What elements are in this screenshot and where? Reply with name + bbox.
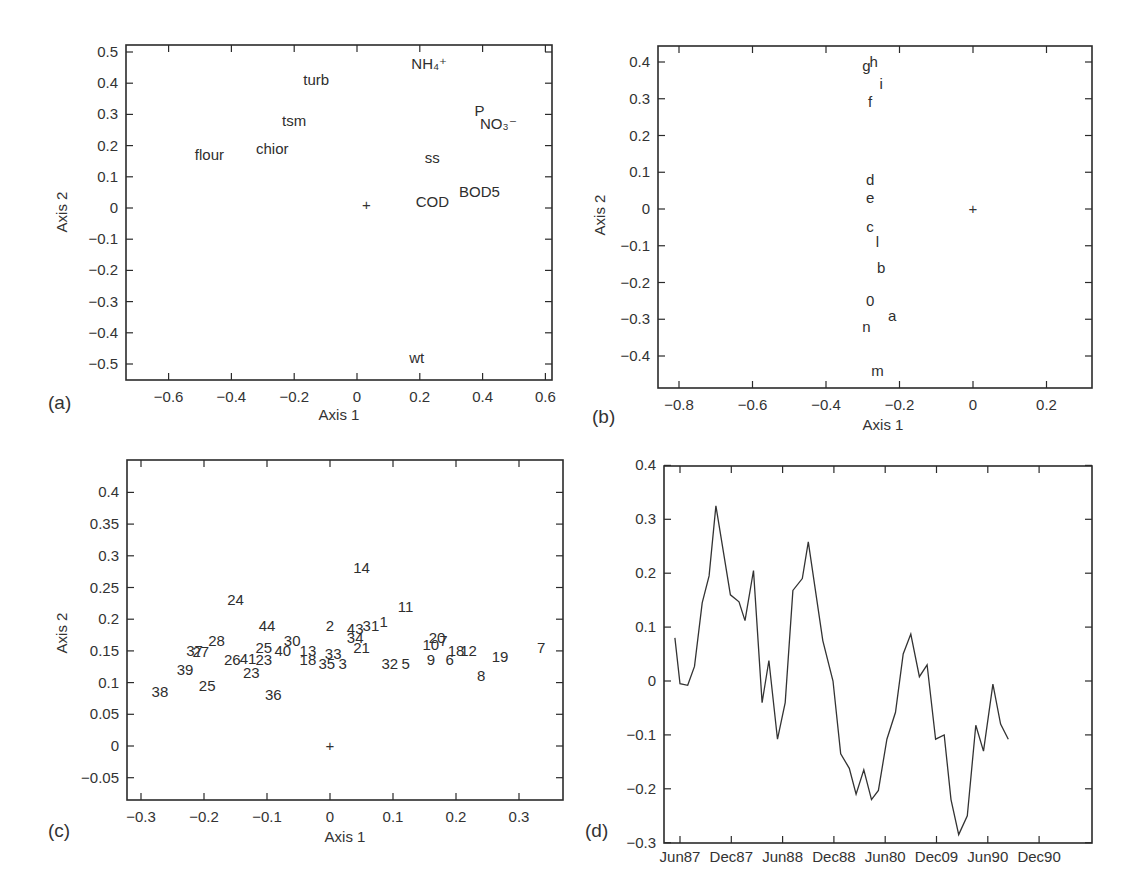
- y-tick-label: 0.4: [97, 74, 118, 91]
- panel-a-ylabel: Axis 2: [53, 192, 70, 233]
- panel-d-series-line: [675, 506, 1008, 835]
- panel-b-y-axis: 0.40.30.20.10−0.1−0.2−0.3−0.4: [620, 53, 1092, 364]
- point-label: 2: [326, 617, 334, 634]
- point-label: 39: [177, 661, 194, 678]
- panel-d-line: 0.40.30.20.10−0.1−0.2−0.3 Jun87Dec87Jun8…: [585, 456, 1092, 865]
- x-tick-label: 0.6: [535, 388, 556, 405]
- point-label: tsm: [282, 112, 306, 129]
- point-label: turb: [303, 71, 329, 88]
- x-tick-label: −0.2: [885, 396, 915, 413]
- point-label: h: [870, 53, 878, 70]
- y-tick-label: 0.4: [98, 483, 119, 500]
- panel-c-ylabel: Axis 2: [53, 613, 70, 654]
- y-tick-label: −0.3: [620, 310, 650, 327]
- panel-c-xlabel: Axis 1: [325, 828, 366, 845]
- y-tick-label: −0.1: [626, 726, 656, 743]
- y-tick-label: −0.2: [626, 780, 656, 797]
- y-tick-label: 0.5: [97, 43, 118, 60]
- panel-c-y-axis: 0.40.350.30.250.20.150.10.050−0.05: [81, 483, 563, 785]
- point-label: f: [868, 93, 873, 110]
- point-label: 35: [319, 655, 336, 672]
- point-label: ss: [425, 149, 440, 166]
- point-label: 28: [208, 632, 225, 649]
- x-tick-label: −0.6: [154, 388, 184, 405]
- x-tick-label: 0.4: [472, 388, 493, 405]
- y-tick-label: 0: [111, 737, 119, 754]
- point-label: 38: [152, 683, 169, 700]
- point-label: d: [866, 171, 874, 188]
- origin-plus-marker: +: [326, 737, 335, 754]
- x-tick-label: −0.4: [217, 388, 247, 405]
- y-tick-label: 0.4: [629, 53, 650, 70]
- point-label: 12: [460, 642, 477, 659]
- point-label: 5: [401, 655, 409, 672]
- point-label: 18: [300, 651, 317, 668]
- y-tick-label: −0.4: [620, 347, 650, 364]
- point-label: flour: [195, 146, 224, 163]
- point-label: 19: [492, 648, 509, 665]
- point-label: 0: [866, 292, 874, 309]
- panel-b-x-axis: −0.8−0.6−0.4−0.200.2: [664, 46, 1057, 413]
- point-label: a: [888, 307, 897, 324]
- panel-a-x-axis: −0.6−0.4−0.200.20.40.6: [154, 45, 556, 405]
- y-tick-label: 0.1: [629, 163, 650, 180]
- y-tick-label: −0.4: [88, 324, 118, 341]
- y-tick-label: −0.3: [626, 834, 656, 851]
- y-tick-label: 0.25: [90, 579, 119, 596]
- y-tick-label: −0.1: [88, 230, 118, 247]
- point-label: 23: [243, 664, 260, 681]
- point-label: 25: [199, 677, 216, 694]
- point-label: b: [877, 259, 885, 276]
- x-tick-label: −0.4: [811, 396, 841, 413]
- panel-b-frame: [658, 46, 1092, 388]
- point-label: m: [871, 362, 884, 379]
- panel-a-points: +turbNH₄⁺tsmPNO₃⁻flourchiorssCODBOD5wt: [195, 55, 517, 365]
- panel-b-label: (b): [592, 406, 615, 427]
- point-label: 8: [477, 667, 485, 684]
- panel-a-y-axis: 0.50.40.30.20.10−0.1−0.2−0.3−0.4−0.5: [88, 43, 552, 372]
- point-label: BOD5: [459, 183, 500, 200]
- point-label: l: [876, 233, 879, 250]
- point-label: chior: [256, 140, 289, 157]
- point-label: 10: [422, 636, 439, 653]
- panel-a-xlabel: Axis 1: [319, 406, 360, 423]
- y-tick-label: 0.2: [98, 610, 119, 627]
- panel-c-scatter: 0.40.350.30.250.20.150.10.050−0.05 −0.3−…: [48, 460, 563, 845]
- y-tick-label: 0.05: [90, 705, 119, 722]
- point-label: NO₃⁻: [480, 115, 517, 132]
- point-label: n: [862, 318, 870, 335]
- figure-canvas: 0.50.40.30.20.10−0.1−0.2−0.3−0.4−0.5 −0.…: [0, 0, 1143, 886]
- x-tick-label: 0: [326, 808, 334, 825]
- point-label: COD: [416, 193, 450, 210]
- x-tick-label: Jun87: [660, 848, 701, 865]
- x-tick-label: −0.6: [738, 396, 768, 413]
- x-tick-label: 0.2: [409, 388, 430, 405]
- panel-a-frame: [126, 45, 552, 380]
- origin-plus-marker: +: [362, 196, 371, 213]
- point-label: 3: [338, 655, 346, 672]
- point-label: c: [866, 218, 874, 235]
- point-label: 27: [193, 643, 210, 660]
- point-label: 40: [274, 642, 291, 659]
- panel-b-ylabel: Axis 2: [591, 195, 608, 236]
- y-tick-label: 0.3: [97, 105, 118, 122]
- point-label: wt: [408, 349, 425, 366]
- point-label: 1: [379, 613, 387, 630]
- point-label: e: [866, 189, 874, 206]
- panel-c-points: +142411442433113430283727201072540132126…: [152, 559, 546, 754]
- x-tick-label: Jun88: [762, 848, 803, 865]
- point-label: 9: [427, 651, 435, 668]
- y-tick-label: −0.1: [620, 237, 650, 254]
- point-label: 36: [265, 686, 282, 703]
- y-tick-label: 0.15: [90, 642, 119, 659]
- origin-plus-marker: +: [969, 200, 978, 217]
- y-tick-label: −0.5: [88, 355, 118, 372]
- panel-a-label: (a): [48, 392, 71, 413]
- y-tick-label: 0.3: [635, 510, 656, 527]
- x-tick-label: Dec88: [812, 848, 855, 865]
- y-tick-label: 0.1: [635, 618, 656, 635]
- x-tick-label: Jun80: [865, 848, 906, 865]
- x-tick-label: −0.1: [252, 808, 282, 825]
- point-label: 44: [259, 617, 276, 634]
- y-tick-label: −0.2: [88, 261, 118, 278]
